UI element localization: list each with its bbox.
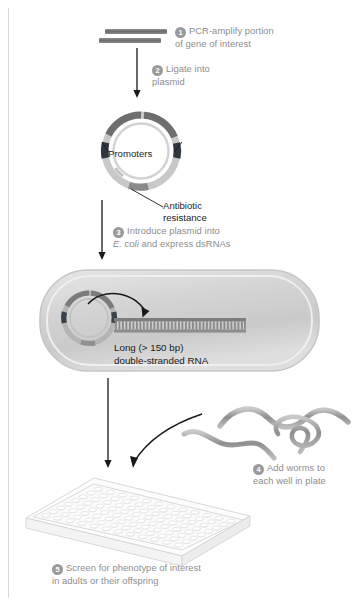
step-1-text: 1PCR-amplify portion of gene of interest	[175, 25, 300, 50]
pcr-product-top-strand	[105, 29, 167, 34]
dsrna-caption: Long (> 150 bp) double-stranded RNA	[114, 341, 208, 367]
step-4-line2: each well in plate	[253, 475, 326, 486]
arrow-pcr-to-plasmid	[131, 48, 143, 100]
step-5-badge: 5	[52, 564, 63, 575]
arrow-cell-to-plate	[102, 378, 114, 470]
step-3-organism: E. coli	[113, 238, 139, 249]
rnai-workflow-diagram: 1PCR-amplify portion of gene of interest…	[0, 0, 361, 603]
antibiotic-leader-line	[131, 189, 167, 211]
arrow-plasmid-to-cell	[96, 200, 108, 262]
antibiotic-line2: resistance	[163, 212, 207, 223]
step-4-text: 4Add worms to each well in plate	[253, 462, 358, 487]
step-3-line2-rest: and express dsRNAs	[139, 238, 231, 249]
step-5-line2: in adults or their offspring	[52, 575, 159, 586]
pcr-product-bottom-strand	[99, 38, 161, 43]
step-3-line1: Introduce plasmid into	[127, 225, 220, 236]
step-1-line1: PCR-amplify portion	[189, 25, 274, 36]
step-3-badge: 3	[113, 227, 124, 238]
96-well-microplate	[22, 470, 254, 570]
step-3-text: 3Introduce plasmid into E. coli and expr…	[113, 225, 288, 250]
left-divider-rule	[8, 8, 9, 598]
step-1-badge: 1	[175, 27, 186, 38]
arrow-worms-to-plate	[116, 412, 204, 470]
dsrna-line1: Long (> 150 bp)	[114, 342, 183, 353]
nematode-worms	[182, 382, 361, 462]
antibiotic-line1: Antibiotic	[163, 200, 202, 211]
step-2-text: 2Ligate into plasmid	[152, 63, 272, 88]
antibiotic-resistance-label: Antibiotic resistance	[163, 200, 207, 224]
step-4-line1: Add worms to	[267, 462, 325, 473]
step-2-line2: plasmid	[152, 76, 185, 87]
step-2-badge: 2	[152, 65, 163, 76]
step-1-line2: of gene of interest	[175, 38, 251, 49]
double-stranded-rna	[114, 318, 246, 334]
promoters-leader-lines	[96, 140, 188, 160]
step-4-badge: 4	[253, 464, 264, 475]
step-5-text: 5Screen for phenotype of interest in adu…	[52, 562, 282, 587]
step-2-line1: Ligate into	[166, 63, 210, 74]
dsrna-line2: double-stranded RNA	[114, 355, 208, 366]
step-5-line1: Screen for phenotype of interest	[66, 562, 201, 573]
